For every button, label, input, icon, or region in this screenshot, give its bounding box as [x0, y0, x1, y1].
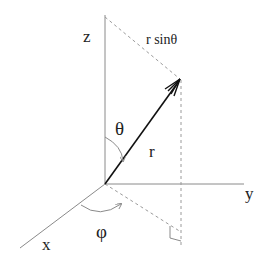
- x-axis: [20, 184, 105, 248]
- vector-arrowhead-icon: [165, 79, 180, 96]
- phi-arc: [81, 204, 121, 212]
- right-angle-marker: [170, 226, 181, 241]
- projection-top-dashed-line: [105, 17, 180, 79]
- spherical-coordinates-diagram: z y x r θ φ r sinθ: [0, 0, 269, 264]
- y-axis-label: y: [245, 184, 254, 203]
- r-sin-theta-label: r sinθ: [146, 32, 178, 47]
- z-axis-label: z: [83, 27, 91, 46]
- x-axis-label: x: [42, 235, 51, 254]
- radius-label: r: [149, 142, 155, 161]
- xy-projection-dashed-line: [105, 184, 181, 232]
- theta-label: θ: [115, 118, 124, 139]
- theta-arc: [105, 137, 123, 161]
- phi-label: φ: [96, 221, 107, 242]
